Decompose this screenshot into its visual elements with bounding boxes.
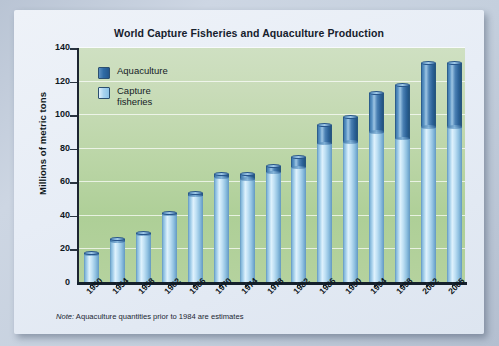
bar-top-cap	[343, 115, 358, 119]
bar	[162, 213, 177, 284]
bar	[266, 166, 281, 284]
bar-segment-aquaculture	[421, 63, 436, 127]
y-axis-tick	[70, 249, 77, 251]
chart-card: World Capture Fisheries and Aquaculture …	[14, 10, 484, 334]
bar-segment-capture-fisheries	[369, 132, 384, 283]
legend-swatch-icon	[98, 67, 110, 79]
chart-legend: AquacultureCapturefisheries	[98, 66, 168, 114]
y-axis-label: 120	[30, 76, 70, 86]
bar-segment-aquaculture	[317, 125, 332, 143]
bar-segment-aquaculture	[343, 117, 358, 142]
bar	[291, 157, 306, 283]
legend-item: Capturefisheries	[98, 86, 168, 107]
bar-segment-capture-fisheries	[162, 214, 177, 283]
bar-segment-joint	[291, 166, 306, 169]
y-axis-label: 40	[30, 210, 70, 220]
bar-segment-joint	[447, 125, 462, 128]
y-axis-tick	[70, 149, 77, 151]
bar-top-cap	[395, 83, 410, 87]
chart-note: Note: Aquaculture quantities prior to 19…	[56, 312, 243, 321]
bar-top-cap	[240, 172, 255, 176]
bar-top-cap	[421, 61, 436, 65]
legend-label: Aquaculture	[117, 66, 168, 77]
bar-segment-joint	[240, 177, 255, 180]
bar-segment-capture-fisheries	[266, 172, 281, 283]
bar-top-cap	[214, 172, 229, 176]
bar-segment-joint	[266, 171, 281, 174]
bar-segment-capture-fisheries	[317, 144, 332, 283]
bar	[188, 193, 203, 283]
note-body: Aquaculture quantities prior to 1984 are…	[74, 312, 243, 321]
bar	[317, 125, 332, 283]
bar-segment-aquaculture	[447, 63, 462, 127]
bar	[343, 117, 358, 283]
y-axis-label: 140	[30, 42, 70, 52]
y-axis-tick	[70, 82, 77, 84]
bar-top-cap	[266, 164, 281, 168]
y-axis-tick	[70, 48, 77, 50]
bar	[421, 63, 436, 283]
note-prefix: Note:	[56, 312, 74, 321]
y-axis-label: 20	[30, 243, 70, 253]
bar-segment-capture-fisheries	[343, 142, 358, 283]
bar-segment-aquaculture	[369, 93, 384, 132]
bar-segment-capture-fisheries	[421, 127, 436, 283]
bar	[447, 63, 462, 283]
legend-swatch-icon	[98, 87, 110, 99]
legend-label: Capturefisheries	[117, 86, 152, 107]
bar-top-cap	[84, 251, 99, 255]
gridline	[79, 47, 465, 48]
plot-wrapper: Millions of metric tons 0204060801001201…	[14, 10, 484, 334]
bar-segment-capture-fisheries	[447, 127, 462, 283]
bar-segment-capture-fisheries	[240, 179, 255, 283]
y-axis-tick	[70, 216, 77, 218]
bar-segment-capture-fisheries	[214, 177, 229, 283]
y-axis-tick	[70, 115, 77, 117]
y-axis-label: 100	[30, 109, 70, 119]
y-axis-label: 80	[30, 143, 70, 153]
y-axis-label: 0	[30, 277, 70, 287]
bar	[369, 93, 384, 283]
legend-item: Aquaculture	[98, 66, 168, 79]
bar-top-cap	[447, 61, 462, 65]
bar	[214, 174, 229, 283]
bar-segment-aquaculture	[395, 85, 410, 139]
bar-segment-capture-fisheries	[188, 196, 203, 283]
bar-segment-joint	[421, 125, 436, 128]
bar	[240, 174, 255, 283]
bar-segment-capture-fisheries	[395, 139, 410, 283]
bar-segment-joint	[369, 130, 384, 133]
bar-top-cap	[136, 231, 151, 235]
bar-segment-joint	[214, 176, 229, 179]
bar-segment-capture-fisheries	[291, 167, 306, 283]
y-axis-tick	[70, 182, 77, 184]
bar-segment-joint	[343, 140, 358, 143]
bar	[395, 85, 410, 283]
bar-top-cap	[162, 211, 177, 215]
y-axis-label: 60	[30, 176, 70, 186]
